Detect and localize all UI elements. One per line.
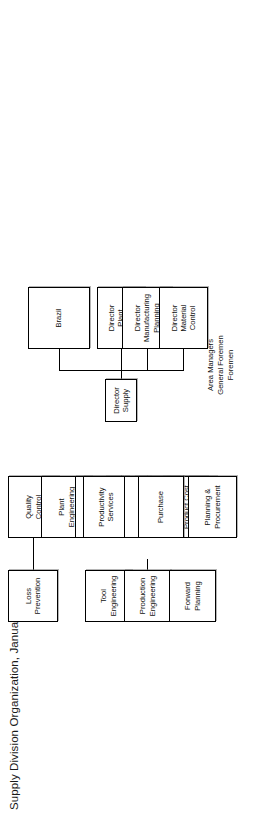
node-productivity-services[interactable]: Productivity Services <box>83 476 129 538</box>
node-label: Brazil <box>54 309 63 328</box>
node-production-engineering[interactable]: Production Engineering <box>124 570 171 622</box>
node-label: Planning & Procurement <box>203 485 222 528</box>
org-chart-canvas: Supply Division Organization, January 19… <box>0 0 259 818</box>
node-planning-procurement[interactable]: Planning & Procurement <box>188 476 237 538</box>
edge-to-material-control <box>183 349 184 371</box>
node-label: Tool Engineering <box>99 576 118 617</box>
node-label: Plant Engineering <box>57 487 76 528</box>
node-purchase[interactable]: Purchase <box>138 476 184 538</box>
node-label: Purchase <box>156 491 165 523</box>
node-loss-prevention[interactable]: Loss Prevention <box>8 570 58 622</box>
org-chart-page: Supply Division Organization, January 19… <box>0 0 259 818</box>
node-label: Forward Planning <box>183 581 202 611</box>
node-label: Quality Control <box>24 495 43 519</box>
area-managers-annotation: Area Managers General Foremen Foremen <box>206 317 236 413</box>
node-director-material-control[interactable]: Director Material Control <box>159 287 208 349</box>
node-label: Production Engineering <box>138 576 157 617</box>
node-brazil[interactable]: Brazil <box>28 287 90 349</box>
edge-to-plant-operations <box>121 349 122 371</box>
node-label: Loss Prevention <box>24 578 43 614</box>
node-forward-planning[interactable]: Forward Planning <box>169 570 216 622</box>
edge-to-brazil <box>59 349 60 371</box>
node-label: Director Supply <box>112 387 131 414</box>
node-label: Director Material Control <box>170 305 198 332</box>
node-director-supply[interactable]: Director Supply <box>105 379 137 422</box>
edge-to-manufacturing-planning-2 <box>147 349 148 371</box>
node-label: Productivity Services <box>97 487 116 526</box>
node-label: Director Manufacturing Planning <box>133 294 161 342</box>
